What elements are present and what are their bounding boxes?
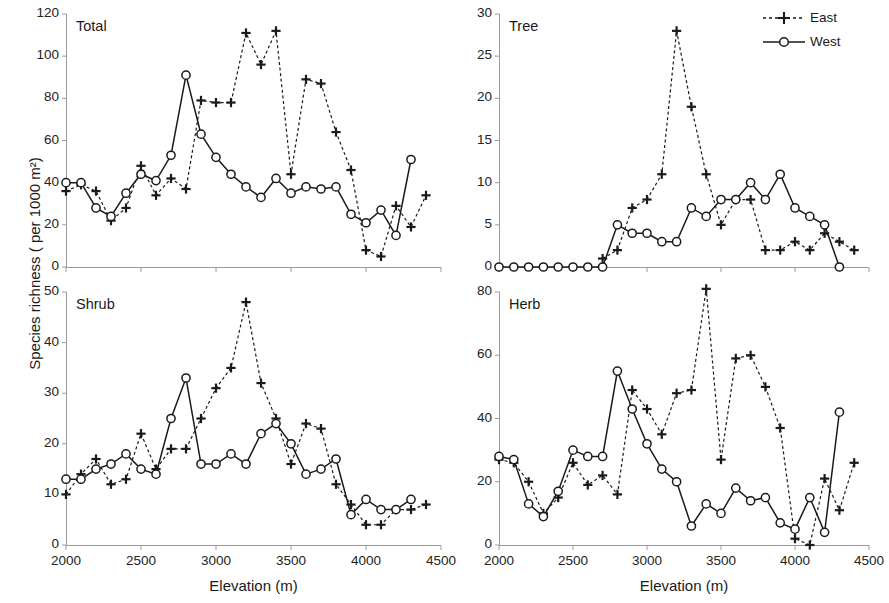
x-tick-label: 4500 (411, 553, 471, 568)
data-point-marker-plus (106, 480, 115, 489)
x-tick-label: 3500 (261, 553, 321, 568)
x-tick-label: 4000 (765, 553, 825, 568)
data-point-marker-plus (301, 419, 310, 428)
data-point-marker-circle (62, 179, 70, 187)
data-point-marker-plus (361, 520, 370, 529)
data-point-marker-plus (761, 246, 770, 255)
data-point-marker-plus (181, 444, 190, 453)
data-point-marker-circle (821, 528, 829, 536)
data-point-marker-circle (791, 204, 799, 212)
data-point-marker-plus (286, 170, 295, 179)
data-point-marker-circle (613, 367, 621, 375)
data-point-marker-circle (407, 495, 415, 503)
data-point-marker-plus (211, 98, 220, 107)
data-point-marker-circle (377, 505, 385, 513)
legend-west-marker-icon (762, 35, 806, 49)
data-point-marker-circle (687, 204, 695, 212)
data-point-marker-circle (242, 460, 250, 468)
x-axis-title-left: Elevation (m) (66, 577, 441, 594)
data-point-marker-plus (850, 246, 859, 255)
data-point-marker-circle (347, 210, 355, 218)
data-point-marker-plus (406, 222, 415, 231)
data-point-marker-plus (835, 506, 844, 515)
data-point-marker-circle (806, 212, 814, 220)
data-point-marker-plus (672, 26, 681, 35)
data-point-marker-circle (62, 475, 70, 483)
data-point-marker-plus (421, 500, 430, 509)
data-point-marker-plus (657, 430, 666, 439)
data-point-marker-circle (227, 170, 235, 178)
data-point-marker-plus (136, 429, 145, 438)
data-point-marker-plus (687, 385, 696, 394)
data-point-marker-circle (107, 460, 115, 468)
data-point-marker-plus (196, 414, 205, 423)
series-line-east (66, 302, 426, 525)
data-point-marker-circle (835, 408, 843, 416)
legend-west-label: West (810, 34, 841, 49)
y-tick-label: 10 (449, 174, 492, 189)
y-tick-label: 80 (449, 283, 492, 298)
y-tick-label: 40 (449, 410, 492, 425)
data-point-marker-plus (702, 284, 711, 293)
data-point-marker-circle (599, 452, 607, 460)
data-point-marker-plus (598, 471, 607, 480)
data-point-marker-circle (257, 430, 265, 438)
data-point-marker-circle (599, 263, 607, 271)
y-tick-label: 20 (449, 473, 492, 488)
x-tick-label: 2500 (111, 553, 171, 568)
data-point-marker-circle (525, 500, 533, 508)
data-point-marker-circle (302, 470, 310, 478)
data-point-marker-circle (761, 195, 769, 203)
y-tick-label: 100 (16, 47, 59, 62)
legend-item-east: East (762, 10, 837, 25)
data-point-marker-circle (776, 519, 784, 527)
y-tick-label: 120 (16, 5, 59, 20)
data-point-marker-circle (658, 238, 666, 246)
data-point-marker-plus (61, 490, 70, 499)
data-point-marker-plus (835, 237, 844, 246)
data-point-marker-plus (421, 191, 430, 200)
data-point-marker-circle (702, 212, 710, 220)
data-point-marker-circle (242, 183, 250, 191)
data-point-marker-plus (406, 505, 415, 514)
data-point-marker-plus (716, 455, 725, 464)
data-point-marker-circle (584, 452, 592, 460)
series-line-west (499, 174, 839, 267)
data-point-marker-plus (136, 161, 145, 170)
series-line-west (499, 371, 839, 532)
y-tick-label: 15 (449, 132, 492, 147)
data-point-marker-plus (61, 187, 70, 196)
data-point-marker-plus (672, 389, 681, 398)
data-point-marker-plus (776, 246, 785, 255)
data-point-marker-plus (166, 444, 175, 453)
data-point-marker-circle (613, 221, 621, 229)
data-point-marker-circle (212, 460, 220, 468)
data-point-marker-circle (643, 440, 651, 448)
data-point-marker-plus (301, 75, 310, 84)
data-point-marker-circle (257, 193, 265, 201)
data-point-marker-circle (77, 475, 85, 483)
data-point-marker-plus (583, 480, 592, 489)
data-point-marker-circle (392, 231, 400, 239)
y-tick-label: 20 (449, 89, 492, 104)
x-tick-label: 4000 (336, 553, 396, 568)
data-point-marker-plus (226, 98, 235, 107)
data-point-marker-circle (152, 470, 160, 478)
x-tick-label: 3500 (691, 553, 751, 568)
data-point-marker-circle (227, 450, 235, 458)
panel-shrub (66, 292, 441, 545)
data-point-marker-plus (121, 475, 130, 484)
x-tick-label: 4500 (839, 553, 889, 568)
data-point-marker-circle (197, 130, 205, 138)
data-point-marker-plus (716, 220, 725, 229)
panel-title-shrub: Shrub (76, 296, 115, 312)
data-point-marker-plus (850, 458, 859, 467)
data-point-marker-circle (525, 263, 533, 271)
data-point-marker-circle (317, 185, 325, 193)
data-point-marker-plus (790, 534, 799, 543)
data-point-marker-plus (256, 378, 265, 387)
data-point-marker-circle (717, 195, 725, 203)
data-point-marker-circle (302, 183, 310, 191)
panel-title-total: Total (76, 18, 107, 34)
